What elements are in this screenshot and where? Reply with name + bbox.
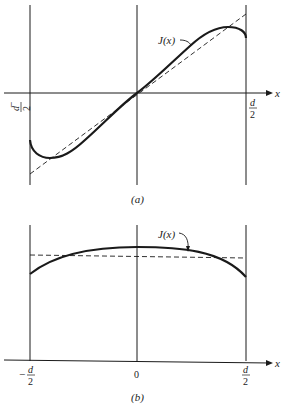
panel-b-caption: (b)	[131, 391, 144, 404]
x-axis-arrow-icon	[266, 360, 273, 366]
x-axis-label: x	[274, 357, 280, 369]
curve-label: J(x)	[158, 228, 175, 241]
svg-text:d: d	[243, 364, 249, 375]
svg-text:−: −	[19, 368, 25, 380]
figure-canvas: x J(x) − d 2 d 2 (a) x	[0, 0, 282, 405]
current-density-curve	[30, 247, 246, 277]
x-axis-label: x	[274, 87, 280, 99]
x-axis-arrow-icon	[266, 90, 273, 96]
svg-text:2: 2	[21, 106, 32, 111]
svg-text:2: 2	[250, 109, 255, 120]
right-tick-label: d 2	[242, 364, 250, 387]
svg-text:d: d	[28, 364, 34, 375]
linear-reference-dashed	[30, 14, 246, 174]
curve-label: J(x)	[158, 34, 175, 47]
panel-b: x J(x) − d 2 0 d 2 (b)	[4, 225, 280, 404]
svg-text:2: 2	[28, 376, 33, 387]
left-tick-label: − d 2	[19, 364, 35, 387]
panel-a: x J(x) − d 2 d 2 (a)	[4, 5, 280, 206]
svg-text:d: d	[250, 97, 256, 108]
center-tick-label: 0	[134, 369, 139, 380]
panel-a-caption: (a)	[131, 193, 144, 206]
right-tick-label: d 2	[249, 97, 257, 120]
label-pointer-arrow	[180, 40, 191, 45]
svg-text:2: 2	[243, 376, 248, 387]
